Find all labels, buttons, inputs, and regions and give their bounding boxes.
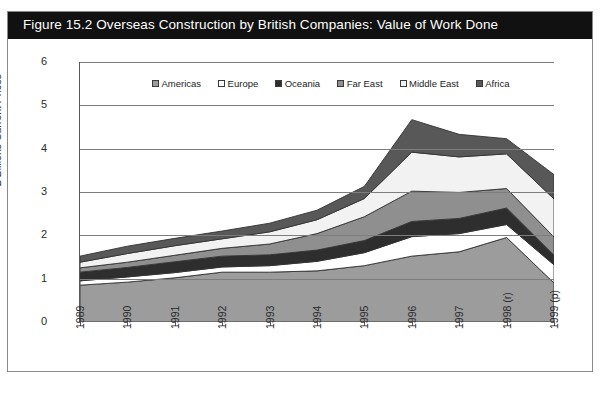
x-tick-label: 1989: [74, 306, 86, 329]
y-tick-label: 5: [7, 98, 47, 110]
x-tick-label: 1993: [264, 306, 276, 329]
legend-swatch-icon: [218, 80, 225, 87]
x-tick-label: 1994: [311, 306, 323, 329]
legend-item-label: Oceania: [285, 79, 320, 89]
y-axis-label: £ Billions Current Prices: [0, 74, 3, 186]
legend-item-label: Europe: [228, 79, 259, 89]
legend-item-middle-east[interactable]: Middle East: [400, 79, 459, 89]
gridline: [80, 149, 554, 150]
legend-item-americas[interactable]: Americas: [152, 79, 201, 89]
legend-item-label: Middle East: [409, 79, 459, 89]
plot-wrapper: £ Billions Current Prices 0123456 198919…: [0, 0, 605, 397]
legend-item-far-east[interactable]: Far East: [337, 79, 382, 89]
gridline: [80, 235, 554, 236]
legend-item-europe[interactable]: Europe: [218, 79, 258, 89]
legend-item-label: Far East: [347, 79, 383, 89]
legend-swatch-icon: [476, 80, 483, 87]
x-tick-label: 1990: [121, 306, 133, 329]
legend-swatch-icon: [152, 80, 159, 87]
gridline: [80, 192, 554, 193]
legend-item-label: Africa: [485, 79, 509, 89]
x-tick-label: 1999 (p): [548, 290, 560, 329]
x-tick-label: 1995: [358, 306, 370, 329]
x-tick-label: 1997: [453, 306, 465, 329]
plot-area: [79, 62, 553, 322]
x-tick-label: 1991: [169, 306, 181, 329]
figure-container: Figure 15.2 Overseas Construction by Bri…: [0, 0, 605, 397]
y-tick-label: 6: [7, 55, 47, 67]
legend-swatch-icon: [337, 80, 344, 87]
legend-swatch-icon: [275, 80, 282, 87]
legend-item-label: Americas: [162, 79, 202, 89]
x-tick-label: 1998 (r): [501, 292, 513, 329]
y-tick-label: 0: [7, 315, 47, 327]
gridline: [80, 279, 554, 280]
chart-legend: AmericasEuropeOceaniaFar EastMiddle East…: [152, 79, 509, 89]
x-tick-label: 1992: [216, 306, 228, 329]
y-tick-label: 2: [7, 228, 47, 240]
y-tick-label: 4: [7, 142, 47, 154]
gridline: [80, 62, 554, 63]
y-tick-label: 3: [7, 185, 47, 197]
y-tick-label: 1: [7, 272, 47, 284]
legend-item-oceania[interactable]: Oceania: [275, 79, 320, 89]
gridline: [80, 105, 554, 106]
x-tick-label: 1996: [406, 306, 418, 329]
legend-item-africa[interactable]: Africa: [476, 79, 510, 89]
legend-swatch-icon: [400, 80, 407, 87]
